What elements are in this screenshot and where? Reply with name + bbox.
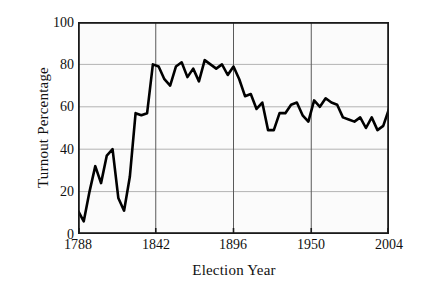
y-axis-tick-label: 100 xyxy=(34,16,74,30)
y-axis-tick-label: 40 xyxy=(34,143,74,157)
y-axis-tick-label: 20 xyxy=(34,185,74,199)
plot-area xyxy=(78,22,389,234)
x-axis-tick-label: 1896 xyxy=(198,238,268,252)
x-axis-tick-label: 2004 xyxy=(354,238,422,252)
y-axis-tick-label: 80 xyxy=(34,58,74,72)
x-axis-tick-label: 1950 xyxy=(276,238,346,252)
y-axis-tick-label: 60 xyxy=(34,100,74,114)
y-axis-title: Turnout Percentage xyxy=(35,20,52,235)
chart-canvas xyxy=(78,22,389,234)
x-axis-title: Election Year xyxy=(78,262,390,279)
chart-figure: Turnout Percentage Election Year 100 80 … xyxy=(0,0,422,295)
x-axis-tick-label: 1842 xyxy=(121,238,191,252)
x-axis-tick-label: 1788 xyxy=(43,238,113,252)
